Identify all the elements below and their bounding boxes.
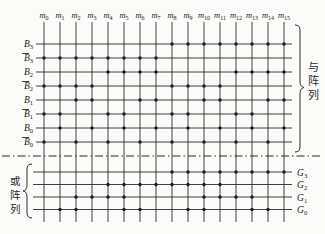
connection-dot <box>74 98 77 101</box>
connection-dot <box>186 208 189 211</box>
connection-dot <box>186 170 189 173</box>
connection-dot <box>170 112 173 115</box>
connection-dot <box>42 140 45 143</box>
connection-dot <box>58 56 61 59</box>
connection-dot <box>74 195 77 198</box>
minterm-label: m4 <box>103 10 112 21</box>
connection-dot <box>202 195 205 198</box>
connection-dot <box>282 42 285 45</box>
connection-dot <box>282 98 285 101</box>
minterm-label: m8 <box>167 10 176 21</box>
connection-dot <box>170 140 173 143</box>
connection-dot <box>58 126 61 129</box>
connection-dot <box>170 170 173 173</box>
connection-dot <box>202 98 205 101</box>
or-array-label: 或阵列 <box>6 176 21 218</box>
connection-dot <box>266 170 269 173</box>
connection-dot <box>250 170 253 173</box>
connection-dot <box>218 126 221 129</box>
and-row-label: B1 <box>24 109 33 120</box>
connection-dot <box>250 126 253 129</box>
connection-dot <box>74 56 77 59</box>
connection-dot <box>138 70 141 73</box>
connection-dot <box>122 183 125 186</box>
connection-dot <box>90 56 93 59</box>
connection-dot <box>106 140 109 143</box>
connection-dot <box>170 42 173 45</box>
connection-dot <box>106 195 109 198</box>
minterm-label: m7 <box>151 10 160 21</box>
connection-dot <box>122 208 125 211</box>
connection-dot <box>154 70 157 73</box>
connection-dot <box>122 126 125 129</box>
connection-dot <box>106 56 109 59</box>
or-row-label: G1 <box>297 193 307 204</box>
minterm-label: m0 <box>39 10 48 21</box>
connection-dot <box>106 183 109 186</box>
connection-dot <box>74 84 77 87</box>
and-row-label: B0 <box>24 137 33 148</box>
connection-dot <box>186 84 189 87</box>
connection-dot <box>154 56 157 59</box>
minterm-label: m11 <box>214 10 226 21</box>
connection-dot <box>234 170 237 173</box>
connection-dot <box>266 70 269 73</box>
connection-dot <box>282 126 285 129</box>
connection-dot <box>122 112 125 115</box>
connection-dot <box>122 56 125 59</box>
connection-dot <box>202 42 205 45</box>
connection-dot <box>58 208 61 211</box>
connection-dot <box>202 84 205 87</box>
minterm-label: m14 <box>262 10 274 21</box>
connection-dot <box>218 84 221 87</box>
connection-dot <box>186 42 189 45</box>
connection-dot <box>250 42 253 45</box>
connection-dot <box>186 183 189 186</box>
connection-dot <box>138 98 141 101</box>
and-row-label: B3 <box>24 39 33 50</box>
connection-dot <box>106 70 109 73</box>
connection-dot <box>138 208 141 211</box>
and-array-label: 与阵列 <box>305 61 321 103</box>
connection-dot <box>234 42 237 45</box>
connection-dot <box>90 84 93 87</box>
connection-dot <box>218 170 221 173</box>
minterm-label: m5 <box>119 10 128 21</box>
connection-dot <box>218 195 221 198</box>
connection-dot <box>138 140 141 143</box>
connection-dot <box>42 56 45 59</box>
minterm-label: m2 <box>71 10 80 21</box>
connection-dot <box>122 70 125 73</box>
connection-dot <box>170 84 173 87</box>
connection-dot <box>90 98 93 101</box>
connection-dot <box>170 183 173 186</box>
connection-dot <box>106 112 109 115</box>
and-row-label: B3 <box>24 53 33 64</box>
connection-dot <box>154 98 157 101</box>
connection-dot <box>138 56 141 59</box>
minterm-label: m1 <box>55 10 64 21</box>
connection-dot <box>266 140 269 143</box>
minterm-label: m9 <box>183 10 192 21</box>
connection-dot <box>282 170 285 173</box>
and-row-label: B0 <box>24 123 33 134</box>
connection-dot <box>202 208 205 211</box>
connection-dot <box>282 70 285 73</box>
or-array-brace <box>23 164 32 218</box>
connection-dot <box>154 183 157 186</box>
or-row-label: G3 <box>297 168 307 179</box>
connection-dot <box>218 98 221 101</box>
connection-dot <box>250 208 253 211</box>
connection-dot <box>234 70 237 73</box>
connection-dot <box>186 112 189 115</box>
minterm-label: m13 <box>246 10 258 21</box>
connection-dot <box>266 42 269 45</box>
minterm-label: m6 <box>135 10 144 21</box>
connection-dot <box>250 195 253 198</box>
connection-dot <box>74 208 77 211</box>
connection-dot <box>250 112 253 115</box>
minterm-label: m10 <box>198 10 210 21</box>
connection-dot <box>154 126 157 129</box>
connection-dot <box>234 112 237 115</box>
connection-dot <box>58 84 61 87</box>
